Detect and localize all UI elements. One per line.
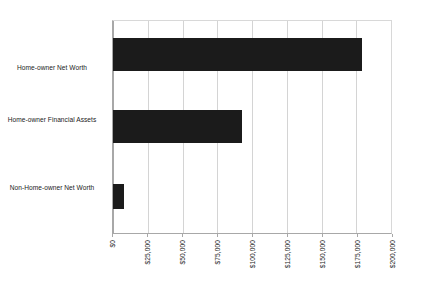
plot-area xyxy=(112,20,392,234)
xtick-label-150000: $150,000 xyxy=(319,240,326,268)
xtick-label-50000: $50,000 xyxy=(179,240,186,265)
tick-mark-0 xyxy=(112,234,113,237)
bar-non-home-owner-net-worth xyxy=(113,184,124,209)
bar-home-owner-net-worth xyxy=(113,38,362,71)
xtick-label-200000: $200,000 xyxy=(389,240,396,268)
tick-mark-200000 xyxy=(392,234,393,237)
bar-chart: Home-owner Net Worth Home-owner Financia… xyxy=(0,0,424,300)
xtick-label-100000: $100,000 xyxy=(249,240,256,268)
xtick-label-175000: $175,000 xyxy=(354,240,361,268)
category-label-home-owner-net-worth: Home-owner Net Worth xyxy=(0,64,104,73)
tick-mark-50000 xyxy=(182,234,183,237)
tick-mark-125000 xyxy=(287,234,288,237)
category-axis-labels: Home-owner Net Worth Home-owner Financia… xyxy=(0,20,108,234)
category-label-home-owner-financial-assets: Home-owner Financial Assets xyxy=(0,116,104,125)
tick-mark-175000 xyxy=(357,234,358,237)
tick-mark-150000 xyxy=(322,234,323,237)
tick-mark-75000 xyxy=(217,234,218,237)
xtick-label-0: $0 xyxy=(109,240,116,248)
tick-mark-25000 xyxy=(147,234,148,237)
xtick-label-25000: $25,000 xyxy=(144,240,151,265)
tick-mark-100000 xyxy=(252,234,253,237)
xtick-label-75000: $75,000 xyxy=(214,240,221,265)
xtick-label-125000: $125,000 xyxy=(284,240,291,268)
category-label-non-home-owner-net-worth: Non-Home-owner Net Worth xyxy=(0,184,104,193)
bar-home-owner-financial-assets xyxy=(113,110,242,143)
